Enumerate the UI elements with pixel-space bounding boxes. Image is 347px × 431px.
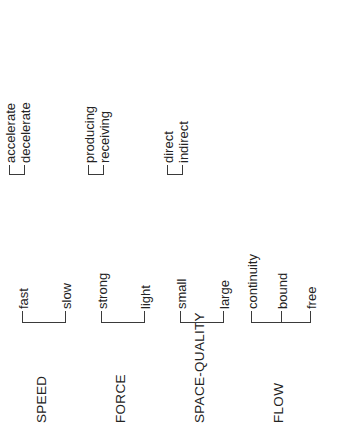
- bracket-stem: [223, 311, 224, 323]
- bracket-stem: [88, 165, 89, 175]
- category-label-flow: FLOW: [243, 383, 313, 423]
- diagram-row-speed: SPEED fast slow accelerate decelerate: [6, 0, 76, 431]
- bracket-spine: [9, 174, 25, 175]
- leaf-label-producing: producing: [83, 106, 96, 163]
- category-label-speed: SPEED: [6, 376, 76, 423]
- leaf-label-continuity: continuity: [246, 254, 259, 309]
- bracket-stem: [180, 311, 181, 323]
- bracket-stem: [65, 311, 66, 323]
- bracket-stem: [182, 165, 183, 175]
- bracket-stem: [144, 311, 145, 323]
- bracket-stem: [9, 165, 10, 175]
- diagram-row-space-quality: SPACE-QUALITY small large direct indirec…: [164, 0, 234, 431]
- leaf-label-small: small: [175, 279, 188, 309]
- bracket-stem: [24, 165, 25, 175]
- leaf-label-slow: slow: [60, 283, 73, 309]
- bracket-spine: [22, 322, 66, 323]
- leaf-label-accelerate: accelerate: [4, 103, 17, 163]
- leaf-label-light: light: [139, 285, 152, 309]
- bracket-spine: [180, 322, 224, 323]
- leaf-label-fast: fast: [17, 288, 30, 309]
- bracket-stem: [103, 165, 104, 175]
- diagram-row-force: FORCE strong light producing receiving: [85, 0, 155, 431]
- diagram-row-flow: FLOW continuity bound free: [243, 0, 313, 431]
- bracket-stem: [251, 311, 252, 323]
- bracket-stem: [22, 311, 23, 323]
- leaf-label-decelerate: decelerate: [19, 102, 32, 163]
- bracket-stem: [281, 311, 282, 323]
- leaf-label-direct: direct: [162, 131, 175, 163]
- bracket-spine: [167, 174, 183, 175]
- effort-tree-diagram: SPEED fast slow accelerate decelerate FO…: [0, 0, 347, 431]
- category-label-force: FORCE: [85, 374, 155, 423]
- leaf-label-free: free: [305, 287, 318, 309]
- leaf-label-indirect: indirect: [177, 121, 190, 163]
- category-label-space-quality: SPACE-QUALITY: [164, 312, 234, 423]
- bracket-stem: [101, 311, 102, 323]
- bracket-spine: [88, 174, 104, 175]
- diagram-canvas: SPEED fast slow accelerate decelerate FO…: [0, 0, 347, 431]
- bracket-stem: [167, 165, 168, 175]
- leaf-label-receiving: receiving: [98, 111, 111, 163]
- leaf-label-bound: bound: [276, 273, 289, 309]
- leaf-label-large: large: [218, 280, 231, 309]
- bracket-stem: [310, 311, 311, 323]
- bracket-spine: [101, 322, 145, 323]
- leaf-label-strong: strong: [96, 273, 109, 309]
